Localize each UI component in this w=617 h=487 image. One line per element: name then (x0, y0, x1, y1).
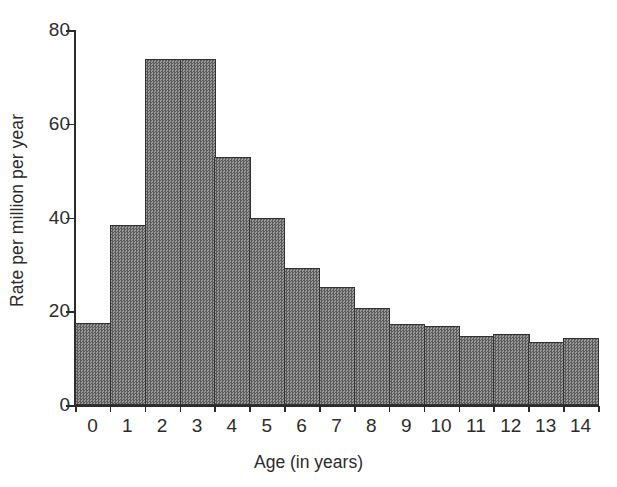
bar (75, 323, 111, 405)
x-tick-mark (145, 406, 147, 412)
bar (145, 59, 181, 405)
x-tick-label: 11 (466, 415, 486, 437)
x-tick-mark (354, 406, 356, 412)
bar (180, 59, 216, 405)
x-axis-title-text: Age (in years) (254, 452, 363, 472)
x-tick-label: 8 (366, 415, 377, 437)
x-tick-label: 5 (261, 415, 272, 437)
x-tick-label: 12 (500, 415, 521, 437)
x-tick-mark (389, 406, 391, 412)
x-axis-title: Age (in years) (0, 452, 617, 473)
bar (563, 338, 599, 405)
bar (284, 268, 320, 405)
bar (424, 326, 460, 405)
y-axis-title: Rate per million per year (0, 0, 36, 420)
bar (319, 287, 355, 405)
x-tick-label: 4 (227, 415, 238, 437)
bar (249, 218, 285, 406)
y-tick-label: 60 (49, 113, 70, 135)
y-tick-label: 20 (49, 300, 70, 322)
x-tick-label: 6 (296, 415, 307, 437)
x-tick-label: 1 (122, 415, 133, 437)
x-tick-label: 2 (157, 415, 168, 437)
x-tick-label: 7 (331, 415, 342, 437)
x-tick-label: 3 (192, 415, 203, 437)
x-tick-mark (214, 406, 216, 412)
x-tick-label: 10 (431, 415, 452, 437)
y-tick-label: 0 (59, 394, 70, 416)
y-tick-label: 40 (49, 207, 70, 229)
x-tick-mark (563, 406, 565, 412)
x-tick-mark (493, 406, 495, 412)
x-tick-mark (110, 406, 112, 412)
bar (459, 336, 495, 405)
x-tick-mark (424, 406, 426, 412)
x-tick-mark (319, 406, 321, 412)
x-tick-mark (528, 406, 530, 412)
x-axis-line (74, 405, 599, 407)
x-tick-mark (459, 406, 461, 412)
x-tick-mark (284, 406, 286, 412)
x-tick-label: 14 (570, 415, 591, 437)
bar (110, 225, 146, 405)
x-tick-label: 9 (401, 415, 412, 437)
bar (493, 334, 529, 405)
x-tick-mark (249, 406, 251, 412)
x-tick-mark (180, 406, 182, 412)
bar (214, 157, 250, 405)
y-tick-label: 80 (49, 19, 70, 41)
bar (389, 324, 425, 405)
histogram-figure: Rate per million per year 020406080 0123… (0, 0, 617, 487)
bar (354, 308, 390, 406)
plot-area: 020406080 01234567891011121314 (75, 30, 598, 405)
x-tick-label: 13 (535, 415, 556, 437)
y-axis-title-text: Rate per million per year (8, 113, 29, 306)
x-tick-label: 0 (87, 415, 98, 437)
x-tick-mark (598, 406, 600, 412)
x-tick-mark (75, 406, 77, 412)
bar (528, 342, 564, 405)
